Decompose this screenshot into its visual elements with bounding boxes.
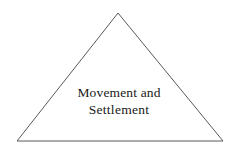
triangle-label-line-2: Settlement bbox=[0, 101, 238, 118]
triangle-label-line-1: Movement and bbox=[0, 84, 238, 101]
triangle-shape bbox=[0, 0, 238, 153]
triangle-label: Movement and Settlement bbox=[0, 84, 238, 118]
triangle-outline bbox=[17, 13, 223, 141]
diagram-canvas: Movement and Settlement bbox=[0, 0, 238, 153]
